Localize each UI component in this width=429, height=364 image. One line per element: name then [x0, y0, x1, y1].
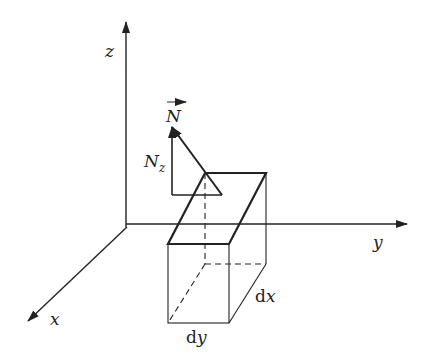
svg-text:d: d [186, 327, 197, 347]
dy-label: d y [186, 327, 207, 347]
normal-z-component-label: N z [143, 151, 166, 175]
z-axis-label: z [104, 41, 115, 61]
x-axis [28, 227, 127, 321]
svg-text:N: N [165, 106, 182, 126]
normal-vector-label: N [165, 102, 186, 126]
dx-label: d x [255, 286, 276, 306]
svg-text:y: y [196, 327, 207, 347]
normal-vector-triangle [172, 127, 222, 195]
inclined-surface [168, 173, 266, 244]
diagram-canvas: z y x N N z d x d y [0, 0, 429, 364]
svg-text:z: z [158, 161, 166, 175]
svg-text:x: x [266, 286, 276, 306]
x-axis-label: x [50, 309, 60, 329]
svg-text:d: d [255, 286, 266, 306]
svg-text:N: N [143, 151, 160, 171]
y-axis-label: y [372, 232, 383, 252]
